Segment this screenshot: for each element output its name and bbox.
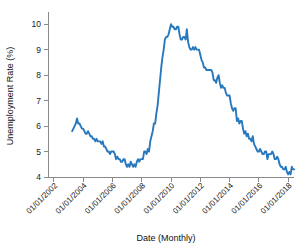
unemployment-rate-line	[72, 24, 294, 174]
chart-plot-area: 45678910 01/01/200201/01/200401/01/20060…	[0, 0, 303, 251]
y-tick-label: 6	[36, 121, 41, 131]
y-axis-title: Unemployment Rate (%)	[5, 47, 15, 146]
x-axis-title: Date (Monthly)	[136, 233, 195, 243]
y-axis-tick-labels: 45678910	[32, 19, 42, 182]
x-axis-ticks	[54, 177, 288, 182]
y-tick-label: 7	[36, 96, 41, 106]
x-axis-tick-labels: 01/01/200201/01/200401/01/200601/01/2008…	[25, 181, 294, 216]
y-tick-label: 8	[36, 70, 41, 80]
x-axis-group: 01/01/200201/01/200401/01/200601/01/2008…	[25, 177, 294, 216]
y-tick-label: 5	[36, 147, 41, 157]
y-axis-ticks	[44, 24, 48, 177]
x-tick-label: 01/01/2018	[259, 181, 294, 216]
y-tick-label: 9	[36, 45, 41, 55]
unemployment-rate-chart: 45678910 01/01/200201/01/200401/01/20060…	[0, 0, 303, 251]
y-axis-group: 45678910	[32, 12, 48, 182]
y-tick-label: 4	[36, 172, 41, 182]
y-tick-label: 10	[32, 19, 42, 29]
